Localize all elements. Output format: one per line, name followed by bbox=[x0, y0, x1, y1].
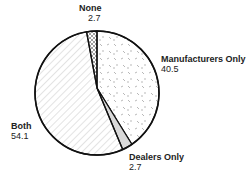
label-both: Both 54.1 bbox=[11, 121, 32, 141]
label-both-name: Both bbox=[11, 121, 32, 131]
label-dealers: Dealers Only 2.7 bbox=[129, 152, 184, 172]
label-manufacturers-value: 40.5 bbox=[161, 64, 246, 74]
pie-chart bbox=[0, 0, 251, 183]
label-none-value: 2.7 bbox=[79, 13, 102, 23]
label-dealers-name: Dealers Only bbox=[129, 152, 184, 162]
label-dealers-value: 2.7 bbox=[129, 162, 184, 172]
label-both-value: 54.1 bbox=[11, 131, 32, 141]
label-manufacturers: Manufacturers Only 40.5 bbox=[161, 54, 246, 74]
label-none: None 2.7 bbox=[79, 3, 102, 23]
label-none-name: None bbox=[79, 3, 102, 13]
label-manufacturers-name: Manufacturers Only bbox=[161, 54, 246, 64]
